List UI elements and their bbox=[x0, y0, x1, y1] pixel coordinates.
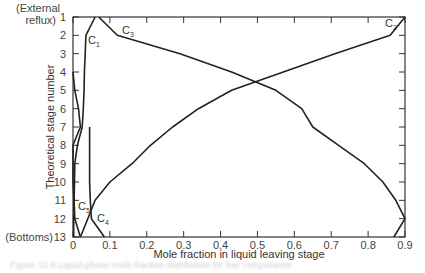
y-tick-label: 2 bbox=[60, 29, 66, 41]
curve-label-c5: C5 bbox=[78, 200, 90, 214]
x-axis-title: Mole fraction in liquid leaving stage bbox=[153, 248, 324, 260]
x-tick-label: 0.8 bbox=[360, 239, 375, 251]
chart-svg: 12345678910111213 00.10.20.30.40.50.60.7… bbox=[0, 0, 425, 273]
y-tick-label: 7 bbox=[60, 121, 66, 133]
bottoms-label: (Bottoms) bbox=[5, 231, 53, 243]
y-tick-label: 11 bbox=[55, 194, 66, 206]
x-tick-label: 0.1 bbox=[102, 239, 117, 251]
reflux-label: reflux) bbox=[25, 14, 56, 26]
x-tick-label: 0.7 bbox=[324, 239, 339, 251]
external-label: (External bbox=[16, 2, 60, 14]
y-tick-label: 6 bbox=[60, 103, 66, 115]
curve-c3 bbox=[99, 17, 405, 237]
y-tick-label: 13 bbox=[54, 231, 66, 243]
y-tick-label: 1 bbox=[60, 11, 66, 23]
x-tick-label: 0.9 bbox=[397, 239, 412, 251]
y-tick-label: 9 bbox=[60, 158, 66, 170]
y-tick-label: 5 bbox=[60, 84, 66, 96]
curves bbox=[73, 17, 405, 237]
x-tick-label: 0 bbox=[70, 239, 76, 251]
curve-label-c3: C3 bbox=[122, 24, 134, 38]
x-axis-ticks: 00.10.20.30.40.50.60.70.80.9 bbox=[70, 17, 413, 251]
curve-c2 bbox=[80, 17, 405, 237]
y-tick-label: 12 bbox=[54, 213, 66, 225]
plot-frame bbox=[73, 17, 405, 237]
y-tick-label: 3 bbox=[60, 48, 66, 60]
y-tick-label: 8 bbox=[60, 139, 66, 151]
curve-label-c2: C2 bbox=[385, 17, 397, 31]
figure-caption: Figure 10.8 Liquid-phase mole-fraction d… bbox=[10, 260, 415, 270]
y-axis-ticks: 12345678910111213 bbox=[54, 11, 405, 243]
y-tick-label: 4 bbox=[60, 66, 66, 78]
curve-label-c4: C4 bbox=[97, 212, 109, 226]
x-tick-label: 0.2 bbox=[139, 239, 154, 251]
y-axis-title: Theoretical stage number bbox=[44, 64, 56, 189]
curve-label-c1: C1 bbox=[88, 34, 100, 48]
